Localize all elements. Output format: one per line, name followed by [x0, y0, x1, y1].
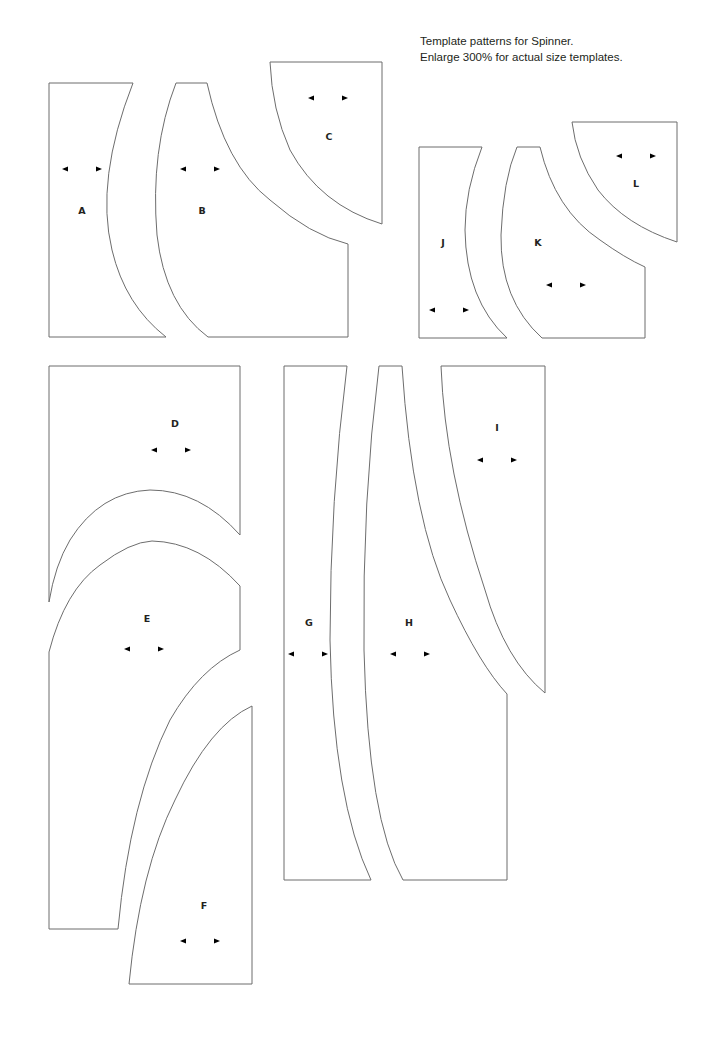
- pattern-piece-g: G: [284, 366, 371, 880]
- pattern-piece-l: L: [572, 122, 677, 242]
- piece-label-d: D: [171, 418, 179, 429]
- pattern-sheet: A B C J K L D E: [0, 0, 704, 1037]
- piece-label-b: B: [198, 205, 205, 216]
- pattern-piece-a: A: [49, 83, 166, 337]
- pattern-piece-c: C: [270, 62, 382, 224]
- piece-label-l: L: [633, 178, 639, 189]
- piece-label-c: C: [326, 131, 333, 142]
- piece-label-j: J: [440, 237, 445, 248]
- piece-label-h: H: [405, 617, 413, 628]
- piece-label-g: G: [305, 617, 313, 628]
- piece-label-i: I: [495, 422, 499, 433]
- piece-label-f: F: [201, 900, 208, 911]
- piece-label-a: A: [78, 205, 86, 216]
- piece-label-e: E: [144, 613, 151, 624]
- piece-label-k: K: [534, 237, 542, 248]
- pattern-piece-j: J: [419, 147, 507, 338]
